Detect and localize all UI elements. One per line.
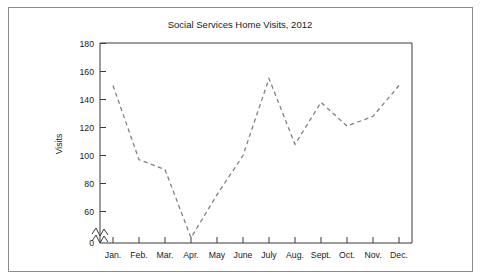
x-tick-label-dec: Dec. bbox=[390, 250, 408, 260]
x-tick-sept: Sept. bbox=[311, 237, 331, 260]
x-tick-oct: Oct. bbox=[339, 237, 355, 260]
y-tick-120: 120 bbox=[80, 123, 107, 133]
y-tick-160: 160 bbox=[80, 67, 107, 77]
x-tick-dec: Dec. bbox=[390, 237, 408, 260]
x-axis-ticks: Jan. Feb. Mar. Apr. May June bbox=[105, 237, 408, 260]
y-tick-80: 80 bbox=[84, 179, 106, 189]
x-tick-label-aug: Aug. bbox=[286, 250, 304, 260]
y-tick-label-120: 120 bbox=[80, 123, 95, 133]
x-tick-aug: Aug. bbox=[286, 237, 304, 260]
chart-title: Social Services Home Visits, 2012 bbox=[168, 19, 313, 30]
x-tick-june: June bbox=[234, 237, 253, 260]
x-tick-label-feb: Feb. bbox=[130, 250, 147, 260]
y-tick-60: 60 bbox=[84, 207, 106, 217]
x-tick-apr: Apr. bbox=[183, 237, 198, 260]
data-series-visits bbox=[113, 79, 399, 238]
x-tick-label-mar: Mar. bbox=[157, 250, 174, 260]
x-tick-label-july: July bbox=[261, 250, 277, 260]
x-tick-nov: Nov. bbox=[364, 237, 381, 260]
x-tick-label-oct: Oct. bbox=[339, 250, 355, 260]
x-tick-may: May bbox=[209, 237, 226, 260]
y-tick-label-180: 180 bbox=[80, 39, 95, 49]
y-tick-100: 100 bbox=[80, 151, 107, 161]
x-tick-label-jan: Jan. bbox=[105, 250, 121, 260]
y-tick-label-160: 160 bbox=[80, 67, 95, 77]
line-chart: Social Services Home Visits, 2012 Visits… bbox=[0, 0, 481, 280]
x-tick-mar: Mar. bbox=[157, 237, 174, 260]
y-tick-label-140: 140 bbox=[80, 95, 95, 105]
y-axis-title: Visits bbox=[54, 133, 64, 154]
x-tick-july: July bbox=[261, 237, 277, 260]
x-tick-feb: Feb. bbox=[130, 237, 147, 260]
figure-container: Social Services Home Visits, 2012 Visits… bbox=[0, 0, 481, 280]
y-axis-ticks: 180 160 140 120 100 80 bbox=[80, 39, 107, 248]
x-tick-label-nov: Nov. bbox=[364, 250, 381, 260]
y-tick-180: 180 bbox=[80, 39, 107, 49]
x-tick-label-may: May bbox=[209, 250, 226, 260]
y-tick-label-100: 100 bbox=[80, 151, 95, 161]
y-tick-140: 140 bbox=[80, 95, 107, 105]
x-tick-label-june: June bbox=[234, 250, 253, 260]
y-tick-label-80: 80 bbox=[84, 179, 94, 189]
x-tick-label-apr: Apr. bbox=[183, 250, 198, 260]
x-tick-label-sept: Sept. bbox=[311, 250, 331, 260]
y-tick-label-60: 60 bbox=[84, 207, 94, 217]
plot-frame bbox=[100, 43, 412, 243]
